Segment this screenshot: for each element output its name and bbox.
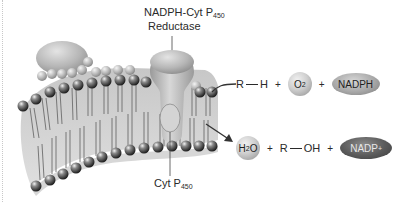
- water-h: H: [239, 143, 246, 154]
- plus-sign: +: [275, 79, 281, 90]
- nadp-superscript: +: [378, 145, 382, 152]
- alcohol-oh: OH: [304, 142, 321, 154]
- nadph-molecule: NADPH: [332, 73, 380, 95]
- reductase-label-main: NADPH-Cyt P: [144, 6, 213, 18]
- reductase-label-line2: Reductase: [148, 20, 201, 33]
- cyt-p450-label-subscript: 450: [181, 183, 193, 190]
- water-molecule: H2O: [236, 136, 260, 160]
- water-o: O: [250, 143, 258, 154]
- nadp-main: NADP: [350, 143, 378, 154]
- reactants-equation: R H + O2 + NADPH: [236, 72, 380, 96]
- plus-sign: +: [267, 143, 273, 154]
- cyt-p450-label-main: Cyt P: [154, 177, 181, 189]
- cyt-p450-label: Cyt P450: [154, 177, 193, 193]
- reductase-label-subscript: 450: [213, 12, 225, 19]
- oxygen-molecule: O2: [288, 72, 312, 96]
- bond-line: [290, 148, 302, 149]
- bond-line: [246, 84, 258, 85]
- substrate-h: H: [260, 78, 268, 90]
- oxygen-subscript: 2: [302, 81, 306, 88]
- products-equation: H2O + R OH + NADP+: [236, 136, 392, 160]
- plus-sign: +: [319, 79, 325, 90]
- oxygen-main: O: [294, 79, 302, 90]
- substrate-r: R: [236, 78, 244, 90]
- nadp-plus-molecule: NADP+: [340, 137, 392, 159]
- plus-sign: +: [327, 143, 333, 154]
- alcohol-r: R: [280, 142, 288, 154]
